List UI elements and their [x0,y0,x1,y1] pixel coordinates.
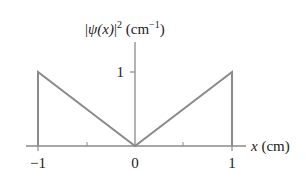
chart: 1 −1 0 1 x (cm) |ψ(x)|2 (cm−1) [0,0,305,170]
x-tick-label-1: 1 [228,155,236,170]
x-axis-label-unit: (cm) [258,138,290,155]
y-label-unit-open: (cm [122,21,149,38]
x-axis-label: x (cm) [250,138,290,155]
x-tick-label-neg1: −1 [30,155,46,170]
y-axis-label: |ψ(x)|2 (cm−1) [85,19,165,38]
y-label-arg: (x) [97,21,114,38]
y-tick-label-1: 1 [117,64,125,80]
x-tick-label-0: 0 [131,155,139,170]
y-label-unit-close: ) [160,21,165,38]
y-label-unit-sup: −1 [149,19,160,30]
